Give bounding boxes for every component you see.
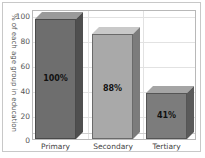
y-tick-80: 80 xyxy=(14,38,30,46)
bar-top xyxy=(35,12,83,19)
bar-top xyxy=(92,27,140,34)
bar-primary: 100% xyxy=(35,12,85,139)
bar-tertiary: 41% xyxy=(146,86,196,139)
bar-side xyxy=(76,12,83,139)
bar-top xyxy=(146,86,194,93)
x-label-tertiary: Tertiary xyxy=(146,142,187,151)
y-tick-20: 20 xyxy=(14,113,30,121)
y-tick-0: 0 xyxy=(14,137,30,145)
y-tick-60: 60 xyxy=(14,63,30,71)
y-tick-40: 40 xyxy=(14,88,30,96)
y-tick-100: 100 xyxy=(14,13,30,21)
data-label: 41% xyxy=(146,111,187,120)
data-label: 88% xyxy=(92,84,133,93)
gridline xyxy=(143,11,144,139)
gridline xyxy=(88,11,89,139)
bar-side xyxy=(187,86,194,139)
bar-side xyxy=(133,27,140,139)
bar-secondary: 88% xyxy=(92,27,142,139)
data-label: 100% xyxy=(35,74,76,83)
x-label-primary: Primary xyxy=(35,142,76,151)
x-label-secondary: Secondary xyxy=(88,142,138,151)
